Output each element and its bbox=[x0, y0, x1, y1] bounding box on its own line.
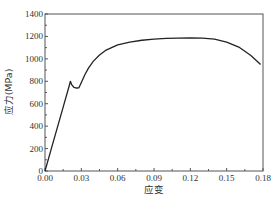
x-tick-label: 0.06 bbox=[110, 173, 126, 183]
y-tick-label: 200 bbox=[30, 144, 44, 154]
x-axis: 0.000.030.060.090.120.150.18 bbox=[37, 168, 271, 183]
y-tick-label: 400 bbox=[30, 121, 44, 131]
x-tick-label: 0.15 bbox=[219, 173, 235, 183]
y-tick-label: 1000 bbox=[25, 54, 44, 64]
y-tick-label: 600 bbox=[30, 99, 44, 109]
data-series bbox=[45, 38, 261, 171]
x-axis-label: 应变 bbox=[144, 184, 164, 195]
y-tick-label: 800 bbox=[30, 76, 44, 86]
x-tick-label: 0.18 bbox=[255, 173, 271, 183]
plot-frame bbox=[45, 14, 263, 171]
y-tick-label: 1200 bbox=[25, 31, 44, 41]
x-tick-label: 0.12 bbox=[182, 173, 198, 183]
stress-strain-curve bbox=[45, 38, 261, 171]
x-tick-label: 0.03 bbox=[73, 173, 89, 183]
stress-strain-chart: 0200400600800100012001400 0.000.030.060.… bbox=[0, 0, 276, 197]
y-axis-label: 应力(MPa) bbox=[3, 69, 14, 116]
x-tick-label: 0.00 bbox=[37, 173, 53, 183]
x-tick-label: 0.09 bbox=[146, 173, 162, 183]
y-tick-label: 1400 bbox=[25, 9, 44, 19]
